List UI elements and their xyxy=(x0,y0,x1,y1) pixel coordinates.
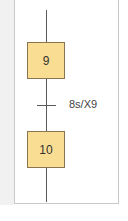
step-label: 9 xyxy=(43,54,50,68)
link-line-top xyxy=(46,10,47,42)
transition-condition: 8s/X9 xyxy=(69,98,97,110)
step-label: 10 xyxy=(39,143,52,157)
left-margin-strip xyxy=(0,0,14,205)
step-10: 10 xyxy=(27,131,65,168)
link-line-bottom xyxy=(46,168,47,202)
transition-bar xyxy=(37,105,56,106)
caption-cutoff xyxy=(0,212,128,221)
diagram-panel xyxy=(14,0,119,204)
step-9: 9 xyxy=(27,42,65,79)
